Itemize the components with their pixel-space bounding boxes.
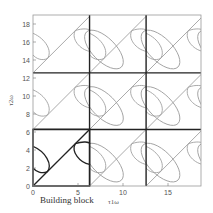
y-tick-label: 2 — [26, 165, 30, 172]
x-axis-label: τ1ω — [108, 198, 119, 206]
y-tick-label: 0 — [26, 183, 30, 190]
tile-1-2 — [90, 16, 187, 75]
y-tick-label: 18 — [22, 21, 30, 28]
right-arc — [131, 142, 147, 164]
right-arc — [187, 85, 203, 107]
right-arc — [74, 29, 90, 51]
right-arc — [187, 142, 203, 164]
left-arc — [146, 146, 162, 172]
building-block-caption: Building block — [40, 195, 94, 205]
tiling-diagram: 051015 024681012141618 Building block τ1… — [0, 0, 213, 213]
y-tick-label: 4 — [26, 147, 30, 154]
y-axis-label: τ2ω — [7, 95, 15, 106]
x-tick-label: 15 — [164, 189, 172, 196]
y-tick-label: 16 — [22, 39, 30, 46]
tile-2-0 — [146, 129, 213, 188]
y-tick-label: 8 — [26, 111, 30, 118]
tile-2-2 — [146, 16, 213, 75]
ellipse — [78, 80, 130, 132]
ellipse — [191, 80, 213, 132]
y-tick-label: 12 — [22, 75, 30, 82]
tile-2-1 — [146, 73, 213, 132]
y-tick-label: 10 — [22, 93, 30, 100]
ellipse — [78, 24, 130, 76]
left-arc — [90, 146, 106, 172]
right-arc — [131, 85, 147, 107]
left-arc — [146, 33, 162, 59]
right-arc — [74, 85, 90, 107]
ellipse — [191, 137, 213, 189]
tile-0-1 — [33, 73, 130, 132]
left-arc — [33, 90, 49, 116]
building-block — [33, 129, 90, 186]
ellipse — [191, 24, 213, 76]
tile-1-1 — [90, 73, 187, 132]
ellipse — [135, 24, 187, 76]
left-arc — [90, 90, 106, 116]
tile-0-2 — [33, 16, 130, 75]
x-tick-label: 10 — [119, 189, 127, 196]
y-tick-label: 6 — [26, 129, 30, 136]
y-tick-label: 14 — [22, 57, 30, 64]
right-arc — [131, 29, 147, 51]
left-arc — [90, 33, 106, 59]
right-arc — [187, 29, 203, 51]
ellipse — [135, 80, 187, 132]
left-arc — [33, 33, 49, 59]
tile-1-0 — [90, 129, 187, 188]
ellipse — [135, 137, 187, 189]
left-arc — [146, 90, 162, 116]
x-tick-label: 0 — [31, 189, 35, 196]
